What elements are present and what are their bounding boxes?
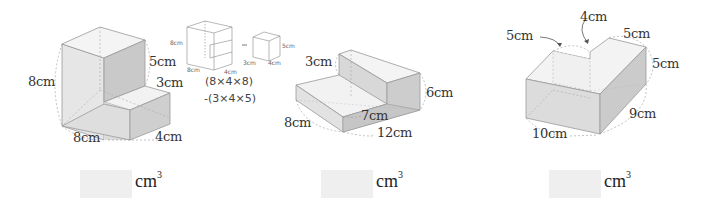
unit-text: cm [604, 171, 626, 191]
answer-unit-3: cm3 [604, 171, 631, 192]
label-left-width: 5cm [506, 28, 533, 43]
answer-input-3[interactable] [549, 170, 601, 198]
unit-exponent: 3 [626, 169, 631, 180]
label-length: 10cm [532, 126, 567, 141]
label-notch: 4cm [580, 9, 607, 24]
label-height: 5cm [652, 56, 679, 71]
label-right-width: 5cm [623, 26, 650, 41]
label-depth: 9cm [629, 106, 656, 121]
